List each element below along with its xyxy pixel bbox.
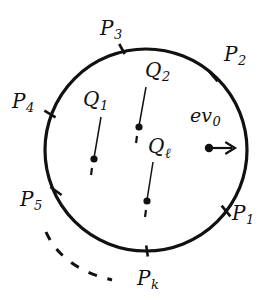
label-P1-subscript: 1 bbox=[246, 212, 254, 227]
label-P5: P5 bbox=[20, 189, 42, 212]
label-Q2-subscript: 2 bbox=[162, 69, 170, 84]
label-P1: P1 bbox=[232, 203, 254, 226]
segment-dot-Q1 bbox=[90, 155, 97, 162]
label-Q2: Q2 bbox=[145, 60, 170, 83]
label-P1-base: P bbox=[232, 201, 245, 225]
label-P2-subscript: 2 bbox=[238, 53, 246, 68]
label-P4: P4 bbox=[12, 91, 34, 114]
label-ev0-subscript: 0 bbox=[212, 114, 220, 129]
label-ev0: ev0 bbox=[190, 106, 221, 128]
segment-dot-Q2 bbox=[135, 123, 142, 130]
segment-line-Q2 bbox=[139, 87, 146, 126]
label-P2-base: P bbox=[224, 42, 237, 66]
label-Ql: Qℓ bbox=[148, 136, 171, 160]
label-P5-subscript: 5 bbox=[34, 198, 42, 213]
label-P2: P2 bbox=[224, 44, 246, 67]
vector-ev0 bbox=[205, 143, 235, 154]
label-Q2-base: Q bbox=[145, 58, 161, 82]
label-Ql-base: Q bbox=[148, 134, 164, 158]
label-Q1-base: Q bbox=[83, 87, 99, 111]
segment-dash-Q2 bbox=[136, 136, 137, 143]
tick-Pk bbox=[146, 246, 148, 257]
label-Pk-base: P bbox=[137, 266, 150, 290]
label-Q1: Q1 bbox=[83, 89, 108, 112]
label-P4-subscript: 4 bbox=[26, 100, 34, 115]
segment-Q2 bbox=[135, 87, 146, 143]
label-P4-base: P bbox=[12, 89, 25, 113]
label-Ql-subscript: ℓ bbox=[165, 145, 171, 161]
label-P3-base: P bbox=[100, 16, 113, 40]
label-Pk: Pk bbox=[137, 268, 159, 291]
segment-Q1 bbox=[90, 117, 101, 175]
label-ev0-base: ev bbox=[190, 104, 212, 126]
segment-dot-Ql bbox=[143, 197, 150, 204]
segment-dash-Q1 bbox=[91, 168, 92, 175]
figure-canvas: P1 P2 P3 P4 P5 Pk Q1 Q2 Qℓ ev0 bbox=[0, 0, 275, 302]
segment-Ql bbox=[143, 162, 153, 217]
label-Q1-subscript: 1 bbox=[100, 98, 108, 113]
label-P3: P3 bbox=[100, 18, 122, 41]
label-P3-subscript: 3 bbox=[114, 27, 122, 42]
label-P5-base: P bbox=[20, 187, 33, 211]
segment-line-Q1 bbox=[94, 117, 101, 158]
label-Pk-subscript: k bbox=[151, 277, 159, 292]
segment-dash-Ql bbox=[145, 210, 146, 217]
boundary-ticks bbox=[44, 44, 230, 257]
segment-line-Ql bbox=[147, 162, 153, 200]
